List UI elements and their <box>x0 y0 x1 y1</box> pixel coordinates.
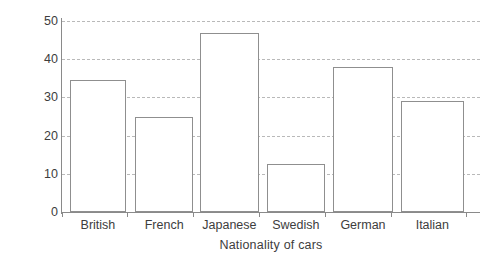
y-tick-label-50: 50 <box>32 15 58 28</box>
y-tick-label-0: 0 <box>32 206 58 219</box>
bar-chart: Number of cars 01020304050 BritishFrench… <box>0 0 497 265</box>
bar-series <box>62 21 480 212</box>
x-tick-mark-3 <box>259 213 260 217</box>
bar-british[interactable] <box>70 80 126 212</box>
bar-french[interactable] <box>135 117 193 213</box>
x-tick-mark-6 <box>466 213 467 217</box>
bar-swedish[interactable] <box>267 164 325 212</box>
bar-japanese[interactable] <box>200 33 259 212</box>
x-axis-tick-labels: BritishFrenchJapaneseSwedishGermanItalia… <box>62 218 480 236</box>
y-tick-label-30: 30 <box>32 91 58 104</box>
x-axis-title: Nationality of cars <box>62 238 480 252</box>
x-tick-mark-0 <box>62 213 63 217</box>
x-tick-label-italian: Italian <box>387 218 477 233</box>
x-axis-line <box>61 212 480 213</box>
x-tick-mark-1 <box>127 213 128 217</box>
x-tick-mark-2 <box>193 213 194 217</box>
bar-italian[interactable] <box>401 101 464 212</box>
y-tick-label-20: 20 <box>32 130 58 143</box>
y-tick-label-40: 40 <box>32 53 58 66</box>
bar-german[interactable] <box>333 67 393 212</box>
y-tick-label-10: 10 <box>32 168 58 181</box>
x-tick-mark-4 <box>325 213 326 217</box>
x-tick-mark-5 <box>391 213 392 217</box>
